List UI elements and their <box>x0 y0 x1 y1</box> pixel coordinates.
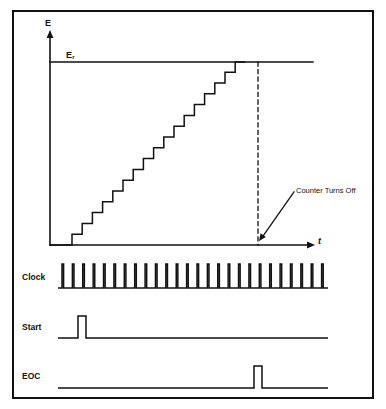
diagram-border-frame <box>12 10 374 399</box>
reference-level-subscript: r <box>72 54 75 60</box>
waveform-label-clock: Clock <box>22 272 45 282</box>
y-axis-label: E <box>45 18 51 28</box>
waveform-label-eoc: EOC <box>22 371 40 381</box>
counter-turns-off-annotation: Counter Turns Off <box>296 186 355 195</box>
waveform-label-start: Start <box>22 322 41 332</box>
reference-level-label: Er <box>66 50 75 60</box>
x-axis-label: t <box>318 236 321 246</box>
diagram-page: E t Er Counter Turns Off Clock Start EOC <box>0 0 386 409</box>
